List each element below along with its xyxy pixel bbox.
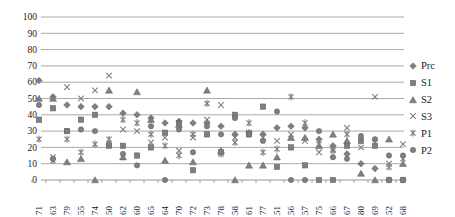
P1-data-point — [274, 145, 279, 152]
S1-data-point — [274, 164, 279, 169]
P1-data-point — [78, 149, 83, 156]
P2-data-point — [120, 151, 125, 156]
P2-data-point — [274, 109, 279, 114]
x-axis-label: 163 — [48, 206, 58, 217]
P1-data-point — [190, 131, 195, 138]
P2-data-point — [246, 132, 251, 137]
x-axis-label: 170 — [174, 206, 184, 217]
P1-data-point — [344, 131, 349, 138]
S3-data-point — [344, 125, 350, 131]
P2-data-point — [50, 156, 55, 161]
S1-data-point — [386, 177, 391, 182]
Prc-data-point — [92, 103, 99, 110]
x-axis-label: 155 — [76, 206, 86, 217]
S3-data-point — [316, 149, 322, 155]
x-axis-label: 152 — [384, 206, 394, 216]
P2-data-point — [330, 154, 335, 159]
scatter-chart: 0102030405060708090100171163179155174150… — [0, 0, 455, 216]
triangle-marker-icon — [407, 94, 419, 106]
P1-data-point — [176, 152, 181, 159]
asterisk-marker-icon — [410, 130, 415, 137]
P2-data-point — [372, 137, 377, 142]
diamond-marker-icon — [407, 60, 419, 72]
legend: Prc S1 S2 S3 P1 P2 — [407, 59, 435, 157]
x-axis-label: 160 — [132, 206, 142, 217]
P1-data-point — [134, 119, 139, 126]
S2-data-point — [204, 87, 211, 93]
Prc-data-point — [260, 131, 267, 138]
Prc-data-point — [218, 123, 225, 130]
square-marker-icon — [410, 80, 415, 85]
legend-label-p1: P1 — [421, 128, 432, 139]
S1-data-point — [302, 163, 307, 168]
y-axis-label: 50 — [28, 94, 38, 104]
P1-data-point — [148, 131, 153, 138]
y-axis-label: 80 — [28, 45, 38, 55]
P1-data-point — [288, 93, 293, 100]
x-axis-label: 175 — [314, 206, 324, 217]
S2-data-point — [64, 159, 71, 165]
Prc-data-point — [134, 112, 141, 119]
x-axis-label: 161 — [244, 206, 254, 216]
P2-data-point — [358, 133, 363, 138]
Prc-data-point — [372, 165, 379, 172]
Prc-data-point — [232, 131, 239, 138]
triangle-marker-icon — [410, 96, 417, 102]
P2-data-point — [232, 115, 237, 120]
Prc-data-point — [78, 103, 85, 110]
x-axis-label: 165 — [146, 206, 156, 217]
P2-data-point — [386, 153, 391, 158]
legend-item-p2: P2 — [407, 143, 435, 157]
x-axis-label: 168 — [398, 206, 408, 217]
S2-data-point — [260, 162, 267, 168]
y-axis-label: 70 — [28, 61, 38, 71]
legend-item-s2: S2 — [407, 93, 435, 107]
S2-data-point — [134, 89, 141, 95]
P2-data-point — [302, 177, 307, 182]
Prc-data-point — [162, 120, 169, 127]
y-axis-label: 60 — [28, 77, 38, 87]
x-axis-label: 150 — [104, 206, 114, 217]
x-axis-label: 162 — [118, 206, 128, 216]
S1-data-point — [78, 117, 83, 122]
P2-data-point — [148, 124, 153, 129]
Prc-data-point — [358, 160, 365, 167]
P1-data-point — [260, 149, 265, 156]
P1-data-point — [92, 141, 97, 148]
P2-data-point — [204, 124, 209, 129]
x-marker-icon — [410, 114, 416, 120]
x-axis-label: 166 — [328, 206, 338, 217]
P2-data-point — [288, 177, 293, 182]
Prc-data-point — [64, 102, 71, 109]
x-axis-label: 172 — [188, 206, 198, 216]
S2-data-point — [162, 157, 169, 163]
S1-data-point — [204, 132, 209, 137]
P2-data-point — [400, 153, 405, 158]
legend-label-s2: S2 — [421, 94, 432, 105]
S1-data-point — [148, 145, 153, 150]
legend-label-s1: S1 — [421, 77, 432, 88]
P2-data-point — [64, 128, 69, 133]
P2-data-point — [36, 102, 41, 107]
P1-data-point — [204, 100, 209, 107]
S3-data-point — [400, 141, 406, 147]
x-axis-label: 173 — [202, 206, 212, 217]
circle-marker-icon — [410, 148, 415, 153]
P1-data-point — [246, 119, 251, 126]
S1-data-point — [316, 177, 321, 182]
y-axis-label: 10 — [28, 159, 38, 169]
x-axis-label: 157 — [300, 206, 310, 217]
S1-data-point — [260, 104, 265, 109]
x-axis-label: 171 — [34, 206, 44, 216]
S1-data-point — [190, 168, 195, 173]
P1-data-point — [232, 139, 237, 146]
P2-data-point — [190, 150, 195, 155]
Prc-data-point — [288, 123, 295, 130]
P2-data-point — [92, 128, 97, 133]
P1-data-point — [162, 142, 167, 149]
x-axis-label: 167 — [342, 206, 352, 217]
x-axis-label: 180 — [356, 206, 366, 217]
circle-marker-icon — [407, 144, 419, 156]
S1-data-point — [288, 145, 293, 150]
S2-data-point — [274, 154, 281, 160]
